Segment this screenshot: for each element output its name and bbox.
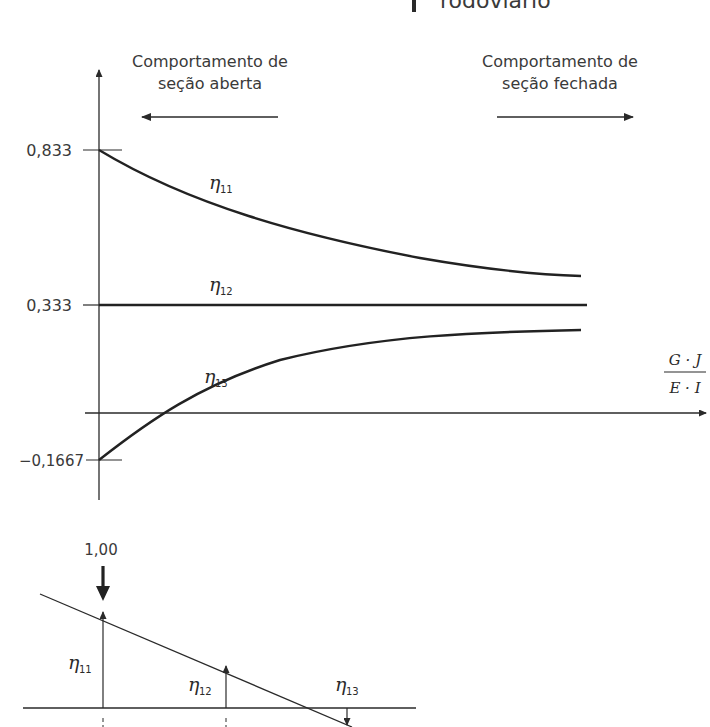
y-tick-0833: 0,833 bbox=[26, 141, 122, 160]
load-arrow-icon bbox=[96, 586, 110, 601]
curve-eta11 bbox=[99, 150, 581, 276]
y-tick-0333: 0,333 bbox=[26, 296, 99, 315]
ordinate-label-eta11: η 11 bbox=[68, 651, 92, 675]
x-label-denominator: E · I bbox=[668, 379, 701, 397]
svg-text:12: 12 bbox=[199, 686, 212, 697]
header-text: rodoviário bbox=[440, 0, 551, 13]
ordinate-label-eta13: η 13 bbox=[335, 673, 359, 697]
annotation-closed-section: Comportamento de seção fechada bbox=[482, 52, 638, 117]
label-eta12: η 12 bbox=[209, 273, 233, 297]
annotation-closed-line1: Comportamento de bbox=[482, 52, 638, 71]
annotation-closed-line2: seção fechada bbox=[502, 74, 618, 93]
svg-text:13: 13 bbox=[215, 378, 228, 389]
svg-text:12: 12 bbox=[220, 286, 233, 297]
y-tick-label: −0,1667 bbox=[19, 452, 84, 470]
header-fragment: rodoviário bbox=[412, 0, 551, 13]
influence-diagram: 1,00 η 11 η 12 η 13 bbox=[23, 541, 416, 727]
svg-text:13: 13 bbox=[346, 686, 359, 697]
annotation-open-line2: seção aberta bbox=[158, 74, 262, 93]
diagram-canvas: rodoviário Comportamento de seção aberta… bbox=[0, 0, 710, 727]
influence-line bbox=[40, 594, 352, 727]
y-tick-label: 0,833 bbox=[26, 141, 72, 160]
ordinate-label-eta12: η 12 bbox=[188, 673, 212, 697]
y-tick-label: 0,333 bbox=[26, 296, 72, 315]
label-eta13: η 13 bbox=[204, 365, 228, 389]
svg-text:11: 11 bbox=[79, 664, 92, 675]
svg-text:11: 11 bbox=[220, 184, 233, 195]
label-eta11: η 11 bbox=[209, 171, 233, 195]
x-axis-label: G · J E · I bbox=[664, 351, 706, 397]
load-label: 1,00 bbox=[84, 541, 117, 559]
header-glyph-bar bbox=[412, 0, 416, 12]
annotation-open-section: Comportamento de seção aberta bbox=[132, 52, 288, 117]
curve-eta13 bbox=[99, 330, 581, 460]
annotation-open-line1: Comportamento de bbox=[132, 52, 288, 71]
x-label-numerator: G · J bbox=[669, 351, 702, 369]
